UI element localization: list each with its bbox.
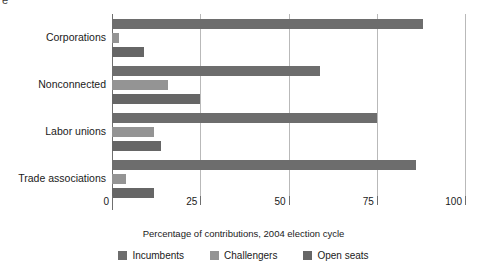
chart-legend: IncumbentsChallengersOpen seats (0, 250, 487, 261)
plot-area (112, 14, 465, 203)
clipped-title-remnant: e (2, 0, 14, 11)
gridline-25 (200, 14, 201, 203)
x-tick (289, 196, 290, 205)
bar-chart: e CorporationsNonconnectedLabor unionsTr… (0, 0, 487, 279)
legend-swatch-icon (303, 251, 312, 260)
bar (112, 174, 126, 184)
x-tick-label: 50 (274, 196, 288, 207)
bar (112, 113, 377, 123)
bar (112, 80, 168, 90)
bar (112, 94, 200, 104)
legend-item: Incumbents (118, 250, 184, 261)
x-tick (200, 196, 201, 205)
category-label: Labor unions (2, 126, 106, 137)
legend-label: Incumbents (132, 250, 184, 261)
bar (112, 141, 161, 151)
bar (112, 19, 423, 29)
x-tick-label: 25 (186, 196, 200, 207)
bar (112, 47, 144, 57)
bar (112, 188, 154, 198)
x-tick-label: 100 (445, 196, 465, 207)
legend-swatch-icon (118, 251, 127, 260)
x-tick (377, 196, 378, 205)
gridline-50 (289, 14, 290, 203)
bar (112, 127, 154, 137)
x-tick-label: 0 (103, 196, 112, 207)
legend-label: Challengers (224, 250, 277, 261)
legend-swatch-icon (210, 251, 219, 260)
gridline-100 (465, 14, 466, 203)
bar (112, 160, 416, 170)
category-axis-labels: CorporationsNonconnectedLabor unionsTrad… (0, 14, 106, 203)
category-label: Corporations (2, 32, 106, 43)
gridline-75 (377, 14, 378, 203)
category-label: Nonconnected (2, 79, 106, 90)
bar (112, 33, 119, 43)
legend-item: Open seats (303, 250, 368, 261)
x-tick (112, 196, 113, 205)
clipped-title-text: e (2, 0, 14, 6)
x-tick-label: 75 (363, 196, 377, 207)
x-axis-label: Percentage of contributions, 2004 electi… (0, 228, 487, 239)
category-label: Trade associations (2, 173, 106, 184)
legend-item: Challengers (210, 250, 277, 261)
x-tick (465, 196, 466, 205)
bar (112, 66, 320, 76)
legend-label: Open seats (317, 250, 368, 261)
